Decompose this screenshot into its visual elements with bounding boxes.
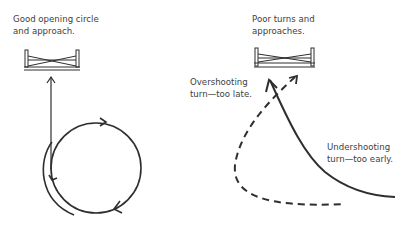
approach-arrow-left [47, 77, 55, 170]
gate-icon-left [24, 50, 80, 70]
overshoot-path [235, 77, 345, 205]
diagram-canvas: Good opening circle and approach. Poor t… [0, 0, 408, 229]
gate-icon-right [254, 48, 315, 67]
diagram-drawing [0, 0, 408, 229]
undershoot-path [266, 80, 395, 197]
opening-circle [43, 118, 141, 215]
